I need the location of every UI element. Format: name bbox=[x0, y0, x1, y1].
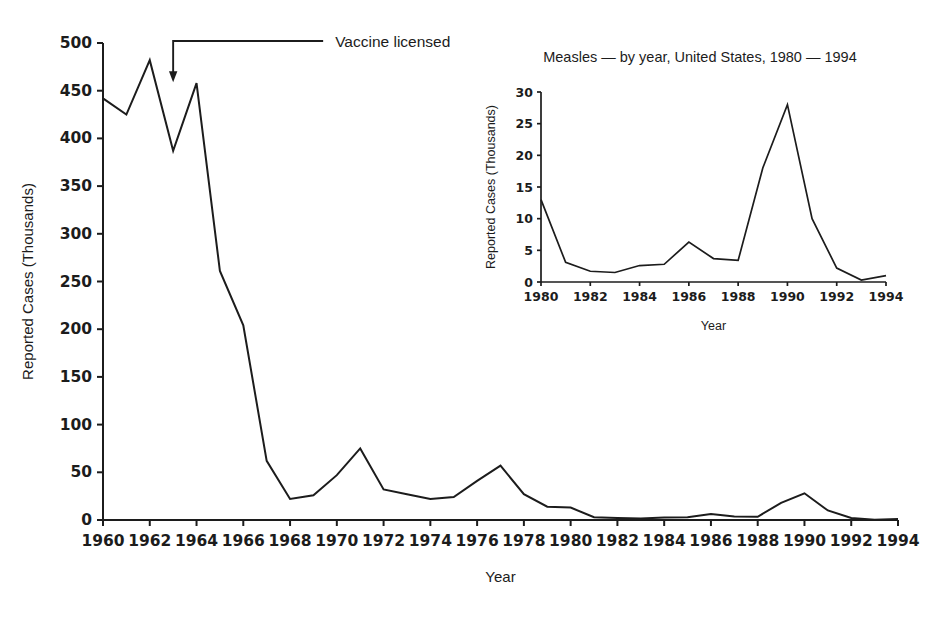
x-tick-label: 1994 bbox=[869, 289, 904, 304]
x-tick-label: 1984 bbox=[643, 532, 686, 550]
y-tick-label: 450 bbox=[60, 82, 93, 100]
x-tick-label: 1982 bbox=[573, 289, 608, 304]
x-tick-label: 1994 bbox=[876, 532, 919, 550]
y-tick-label: 50 bbox=[70, 463, 92, 481]
x-tick-label: 1986 bbox=[671, 289, 706, 304]
y-tick-label: 250 bbox=[60, 273, 93, 291]
annotation-label: Vaccine licensed bbox=[335, 33, 450, 50]
x-tick-label: 1980 bbox=[549, 532, 592, 550]
x-tick-label: 1962 bbox=[128, 532, 171, 550]
y-tick-label: 20 bbox=[516, 148, 534, 163]
x-tick-label: 1966 bbox=[222, 532, 265, 550]
x-tick-label: 1992 bbox=[830, 532, 873, 550]
y-tick-label: 30 bbox=[516, 85, 534, 100]
annotation-arrowhead bbox=[169, 71, 177, 82]
x-tick-label: 1970 bbox=[315, 532, 358, 550]
y-axis-title: Reported Cases (Thousands) bbox=[19, 183, 36, 380]
y-tick-label: 0 bbox=[524, 275, 533, 290]
annotation-vaccine-licensed: Vaccine licensed bbox=[169, 33, 450, 82]
y-tick-label: 15 bbox=[516, 180, 533, 195]
x-tick-label: 1988 bbox=[736, 532, 779, 550]
x-tick-label: 1976 bbox=[456, 532, 499, 550]
y-tick-label: 400 bbox=[60, 129, 93, 147]
annotation-leader-line bbox=[173, 41, 323, 72]
x-tick-label: 1980 bbox=[524, 289, 559, 304]
x-tick-label: 1988 bbox=[721, 289, 756, 304]
x-tick-label: 1964 bbox=[175, 532, 218, 550]
y-tick-label: 10 bbox=[516, 211, 534, 226]
x-tick-label: 1990 bbox=[783, 532, 826, 550]
data-series-line bbox=[541, 105, 886, 280]
x-axis-title: Year bbox=[701, 319, 726, 333]
y-tick-label: 100 bbox=[60, 416, 93, 434]
y-tick-label: 25 bbox=[516, 116, 533, 131]
x-tick-label: 1968 bbox=[268, 532, 311, 550]
y-tick-label: 300 bbox=[60, 225, 93, 243]
y-axis-title: Reported Cases (Thousands) bbox=[484, 105, 498, 269]
x-tick-label: 1972 bbox=[362, 532, 405, 550]
x-tick-label: 1978 bbox=[502, 532, 545, 550]
x-tick-label: 1960 bbox=[81, 532, 124, 550]
x-tick-label: 1982 bbox=[596, 532, 639, 550]
y-tick-label: 5 bbox=[524, 243, 533, 258]
y-tick-label: 200 bbox=[60, 320, 93, 338]
chart-main: 0501001502002503003504004505001960196219… bbox=[19, 33, 920, 585]
y-tick-label: 350 bbox=[60, 177, 93, 195]
x-axis-title: Year bbox=[485, 568, 515, 585]
figure-canvas: 0501001502002503003504004505001960196219… bbox=[0, 0, 933, 623]
chart-inset: 0510152025301980198219841986198819901992… bbox=[484, 49, 904, 333]
chart-title: Measles — by year, United States, 1980 —… bbox=[543, 49, 857, 65]
y-tick-label: 500 bbox=[60, 34, 93, 52]
x-tick-label: 1986 bbox=[689, 532, 732, 550]
x-tick-label: 1974 bbox=[409, 532, 452, 550]
x-tick-label: 1992 bbox=[819, 289, 854, 304]
x-tick-label: 1984 bbox=[622, 289, 657, 304]
x-tick-label: 1990 bbox=[770, 289, 805, 304]
y-tick-label: 150 bbox=[60, 368, 93, 386]
measles-incidence-figure: 0501001502002503003504004505001960196219… bbox=[0, 0, 933, 623]
y-tick-label: 0 bbox=[81, 511, 92, 529]
